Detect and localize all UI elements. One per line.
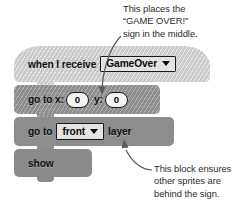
- arrow-bottom-path: [126, 150, 152, 170]
- x-value-input[interactable]: 0: [66, 92, 89, 108]
- scratch-script-figure: This places the “GAME OVER!” sign in the…: [0, 0, 251, 215]
- annotation-bottom: This block ensures other sprites are beh…: [154, 163, 231, 200]
- annotation-bottom-line-2: other sprites are: [154, 175, 231, 187]
- block-notch: [37, 177, 54, 182]
- y-value-input[interactable]: 0: [105, 92, 128, 108]
- block-when-i-receive[interactable]: when I receive GameOver: [14, 46, 210, 82]
- annotation-top: This places the “GAME OVER!” sign in the…: [123, 3, 198, 40]
- message-dropdown-value: GameOver: [106, 58, 157, 69]
- block-when-i-receive-label: when I receive: [28, 59, 96, 70]
- message-dropdown[interactable]: GameOver: [100, 56, 176, 73]
- annotation-top-line-2: “GAME OVER!”: [123, 15, 198, 27]
- block-show[interactable]: show: [14, 149, 92, 177]
- annotation-bottom-line-1: This block ensures: [154, 163, 231, 175]
- block-go-to-xy-label-y: y:: [94, 94, 103, 105]
- triangle-down-icon: [162, 61, 170, 66]
- annotation-top-line-1: This places the: [123, 3, 198, 15]
- block-go-to-layer-label-prefix: go to: [28, 126, 52, 137]
- layer-dropdown-value: front: [62, 126, 85, 137]
- block-show-label: show: [28, 158, 54, 169]
- block-go-to-xy[interactable]: go to x: 0 y: 0: [14, 85, 160, 114]
- layer-dropdown[interactable]: front: [56, 123, 104, 140]
- annotation-bottom-line-3: behind the sign.: [154, 188, 231, 200]
- block-go-to-layer-label-suffix: layer: [108, 126, 131, 137]
- block-go-to-xy-label-x: go to x:: [28, 94, 64, 105]
- triangle-down-icon: [90, 129, 98, 134]
- block-go-to-layer[interactable]: go to front layer: [14, 117, 174, 146]
- annotation-top-line-3: sign in the middle.: [123, 28, 198, 40]
